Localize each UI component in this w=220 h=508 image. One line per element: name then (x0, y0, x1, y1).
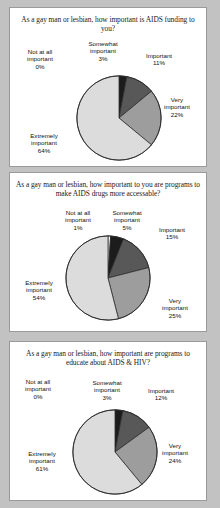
slice-label-line2: important (90, 47, 116, 54)
slice-label-value: 11% (134, 59, 184, 66)
pie-chart-aids-funding: Not at all important 0% Somewhat importa… (10, 8, 206, 166)
slice-label-very: Very important 25% (150, 297, 200, 319)
slice-label-somewhat: Somewhat important 5% (102, 209, 152, 231)
pie-graphic (72, 409, 158, 495)
slice-label-extremely: Extremely important 61% (14, 450, 70, 472)
slice-label-line1: Important (146, 52, 172, 59)
document-page: As a gay man or lesbian, how important i… (0, 0, 220, 508)
slice-label-line1: Important (148, 387, 174, 394)
slice-label-line2: important (164, 103, 190, 110)
slice-label-line1: Extremely (28, 450, 56, 457)
slice-label-value: 0% (16, 63, 64, 70)
slice-label-somewhat: Somewhat important 3% (78, 40, 128, 62)
slice-label-line2: important (31, 139, 57, 146)
slice-label-line1: Very (169, 297, 181, 304)
slice-label-extremely: Extremely important 54% (12, 279, 66, 301)
slice-label-line1: Not at all (66, 209, 90, 216)
slice-label-line2: important (27, 55, 53, 62)
slice-label-value: 22% (152, 111, 202, 118)
slice-label-value: 12% (136, 394, 186, 401)
slice-label-extremely: Extremely important 64% (16, 132, 72, 154)
slice-label-value: 64% (16, 147, 72, 154)
chart-panel-aids-funding: As a gay man or lesbian, how important i… (9, 7, 207, 167)
slice-label-value: 3% (78, 55, 128, 62)
pie-graphic (76, 75, 162, 161)
pie-chart-aids-drugs-accessable: Not at all important 1% Somewhat importa… (10, 173, 206, 331)
slice-label-very: Very important 22% (152, 96, 202, 118)
slice-label-line1: Not at all (28, 48, 52, 55)
slice-label-value: 15% (146, 233, 198, 240)
slice-label-very: Very important 24% (150, 442, 200, 464)
pie-graphic (65, 235, 151, 321)
slice-label-line1: Extremely (30, 132, 58, 139)
slice-label-value: 24% (150, 457, 200, 464)
chart-panel-aids-drugs-accessable: As a gay man or lesbian, how important t… (9, 172, 207, 332)
slice-label-important: Important 15% (146, 226, 198, 241)
slice-label-line1: Somewhat (112, 209, 141, 216)
slice-label-value: 0% (14, 393, 62, 400)
slice-label-value: 61% (14, 465, 70, 472)
chart-panel-educate-aids-hiv: As a gay man or lesbian, how important a… (9, 341, 207, 501)
slice-label-line2: important (65, 216, 91, 223)
slice-label-line1: Very (171, 96, 183, 103)
slice-label-not-at-all: Not at all important 1% (54, 209, 102, 231)
slice-label-line2: important (162, 449, 188, 456)
slice-label-line1: Somewhat (88, 40, 117, 47)
slice-label-important: Important 11% (134, 52, 184, 67)
slice-label-somewhat: Somewhat important 3% (82, 379, 132, 401)
slice-label-line1: Important (159, 226, 185, 233)
slice-label-value: 1% (54, 224, 102, 231)
slice-label-line2: important (114, 216, 140, 223)
slice-label-line1: Very (169, 442, 181, 449)
pie-chart-educate-aids-hiv: Not at all important 0% Somewhat importa… (10, 342, 206, 500)
slice-label-line1: Somewhat (92, 379, 121, 386)
slice-label-value: 54% (12, 294, 66, 301)
slice-label-line2: important (162, 304, 188, 311)
slice-label-line2: important (25, 385, 51, 392)
slice-label-line1: Not at all (26, 378, 50, 385)
slice-label-important: Important 12% (136, 387, 186, 402)
slice-label-line1: Extremely (25, 279, 53, 286)
slice-label-line2: important (29, 457, 55, 464)
slice-label-value: 25% (150, 312, 200, 319)
slice-label-value: 5% (102, 224, 152, 231)
slice-label-line2: important (26, 286, 52, 293)
slice-label-line2: important (94, 386, 120, 393)
slice-label-not-at-all: Not at all important 0% (14, 378, 62, 400)
slice-label-value: 3% (82, 394, 132, 401)
slice-label-not-at-all: Not at all important 0% (16, 48, 64, 70)
